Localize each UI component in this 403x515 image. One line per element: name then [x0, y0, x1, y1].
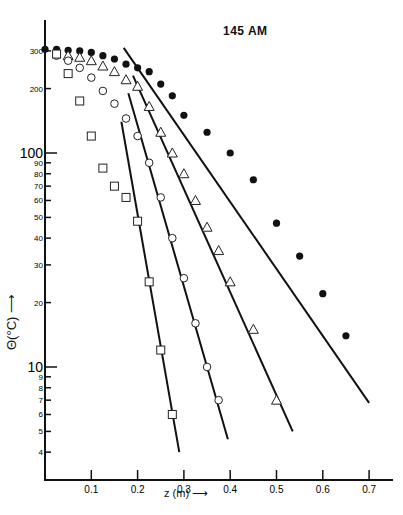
- data-point: [76, 64, 84, 72]
- data-point: [225, 277, 235, 286]
- chart-plot: 0.10.20.30.40.50.60.74567891020304050607…: [0, 0, 403, 515]
- data-point: [122, 115, 130, 123]
- data-point: [157, 80, 164, 87]
- y-tick-label: 7: [39, 396, 44, 405]
- data-point: [122, 193, 130, 201]
- x-tick-label: 0.2: [131, 484, 145, 495]
- x-tick-label: 0.6: [316, 484, 330, 495]
- data-point: [227, 149, 234, 156]
- data-point: [273, 220, 280, 227]
- data-point: [180, 274, 188, 282]
- data-point: [75, 52, 85, 61]
- data-point: [99, 87, 107, 95]
- y-tick-label: 6: [39, 410, 44, 419]
- data-point: [99, 164, 107, 172]
- data-point: [41, 46, 48, 53]
- y-tick-label: 60: [34, 196, 43, 205]
- data-point: [109, 67, 119, 76]
- y-tick-label: 30: [34, 261, 43, 270]
- data-point: [134, 64, 141, 71]
- y-tick-label: 70: [34, 182, 43, 191]
- data-point: [64, 57, 72, 65]
- data-point: [192, 320, 200, 328]
- x-tick-label: 0.1: [84, 484, 98, 495]
- y-tick-label: 50: [34, 213, 43, 222]
- data-point: [88, 74, 96, 82]
- data-point: [146, 68, 153, 75]
- data-point: [121, 75, 131, 84]
- data-point: [157, 346, 165, 354]
- data-point: [145, 159, 153, 167]
- y-tick-label: 10: [27, 359, 43, 375]
- data-point: [250, 176, 257, 183]
- data-point: [248, 324, 258, 333]
- data-point: [167, 148, 177, 157]
- data-point: [190, 195, 200, 204]
- y-tick-label: 80: [34, 170, 43, 179]
- data-point: [203, 363, 211, 371]
- x-tick-label: 0.5: [270, 484, 284, 495]
- data-point: [134, 217, 142, 225]
- data-point: [134, 132, 142, 140]
- x-tick-label: 0.7: [362, 484, 376, 495]
- y-tick-label: 4: [39, 448, 44, 457]
- data-point: [169, 92, 176, 99]
- data-point: [157, 194, 165, 202]
- data-point: [110, 182, 118, 190]
- data-point: [168, 410, 176, 418]
- data-point: [133, 81, 143, 90]
- fit-line: [133, 76, 293, 432]
- y-tick-label: 100: [20, 145, 44, 161]
- y-tick-label: 8: [39, 384, 44, 393]
- data-point: [215, 396, 223, 404]
- y-tick-label: 300: [30, 47, 44, 56]
- y-tick-label: 200: [30, 85, 44, 94]
- y-tick-label: 40: [34, 234, 43, 243]
- data-point: [214, 246, 224, 255]
- data-point: [98, 61, 108, 70]
- chart-title: 145 AM: [223, 24, 268, 38]
- data-point: [111, 55, 118, 62]
- data-point: [202, 222, 212, 231]
- x-axis-label: z (m) ⟶: [164, 487, 208, 500]
- data-point: [76, 97, 84, 105]
- data-point: [296, 252, 303, 259]
- data-point: [272, 395, 282, 404]
- data-point: [99, 52, 106, 59]
- y-tick-label: 5: [39, 427, 44, 436]
- data-point: [64, 70, 72, 78]
- data-point: [169, 234, 177, 242]
- data-point: [180, 112, 187, 119]
- data-point: [87, 132, 95, 140]
- data-point: [53, 50, 61, 58]
- data-point: [319, 290, 326, 297]
- data-point: [203, 129, 210, 136]
- data-point: [122, 61, 129, 68]
- data-point: [179, 169, 189, 178]
- y-tick-label: 20: [34, 299, 43, 308]
- arrow-right-icon: ⟶: [192, 487, 208, 499]
- arrow-up-icon: ⟶: [4, 294, 19, 313]
- y-axis-label: Θ(°C) ⟶: [4, 294, 19, 350]
- x-tick-label: 0.4: [223, 484, 237, 495]
- fit-line: [128, 93, 228, 439]
- data-point: [342, 332, 349, 339]
- data-point: [86, 56, 96, 65]
- data-point: [145, 278, 153, 286]
- data-point: [111, 100, 119, 108]
